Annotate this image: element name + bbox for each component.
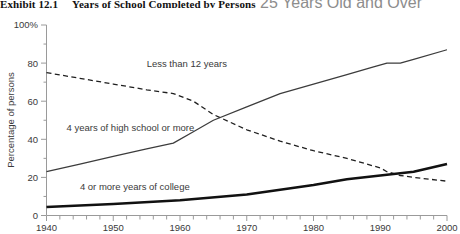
y-tick-label: 0 <box>33 210 38 221</box>
chart-figure: Exhibit 12.1Years of School Completed by… <box>0 0 460 233</box>
x-tick-labels: 1940195019601970198019902000 <box>36 222 458 233</box>
y-tick-label: 80 <box>27 58 38 69</box>
y-tick-label: 20 <box>27 172 38 183</box>
line-chart-plot: 020406080100% Percentage of persons 1940… <box>0 0 460 233</box>
x-tick-label: 2000 <box>436 222 457 233</box>
series-label: 4 years of high school or more <box>67 122 195 133</box>
x-tick-marks <box>47 216 448 222</box>
series-label: 4 or more years of college <box>80 181 190 192</box>
x-tick-label: 1940 <box>36 222 57 233</box>
series-line <box>47 50 448 172</box>
x-tick-label: 1960 <box>169 222 190 233</box>
y-axis: 020406080100% Percentage of persons <box>5 19 47 221</box>
y-tick-labels: 020406080100% <box>14 19 39 221</box>
y-tick-marks <box>41 25 47 216</box>
y-tick-label: 60 <box>27 96 38 107</box>
x-tick-label: 1980 <box>303 222 324 233</box>
x-axis: 1940195019601970198019902000 <box>36 216 458 234</box>
y-tick-label: 100% <box>14 19 39 30</box>
x-tick-label: 1970 <box>236 222 257 233</box>
x-tick-label: 1950 <box>103 222 124 233</box>
y-axis-title: Percentage of persons <box>5 72 16 168</box>
series-annotations: Less than 12 years4 years of high school… <box>67 58 228 193</box>
x-tick-label: 1990 <box>370 222 391 233</box>
y-tick-label: 40 <box>27 134 38 145</box>
series-label: Less than 12 years <box>147 58 228 69</box>
